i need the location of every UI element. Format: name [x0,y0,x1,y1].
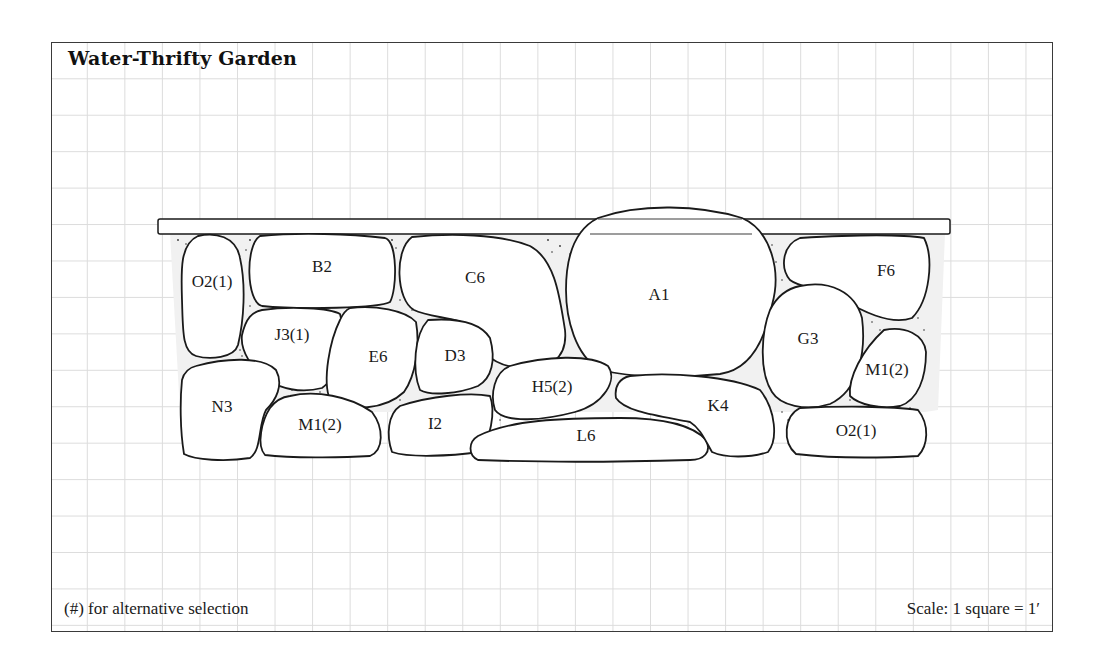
stone-label: O2(1) [836,421,877,440]
stone-label: I2 [428,414,442,433]
wall-cap-board [158,219,950,234]
stone-A1: A1 [566,207,775,376]
stone-label: G3 [798,329,819,348]
stone-L6: L6 [471,418,709,462]
stone-label: D3 [445,346,466,365]
stone-label: M1(2) [865,360,908,379]
stone-label: B2 [312,257,332,276]
stone-label: M1(2) [298,415,341,434]
stone-label: O2(1) [192,272,233,291]
stone-label: L6 [577,426,596,445]
stone-label: N3 [212,397,233,416]
stone-label: H5(2) [532,377,573,396]
stone-wall-plan: O2(1) B2 C6 A1 F6 J3(1) E6 D3 G3 M1(2) H… [0,0,1094,667]
stone-E6: E6 [327,307,418,407]
stone-label: F6 [877,261,895,280]
stone-D3: D3 [415,320,492,394]
stone-label: J3(1) [275,325,310,344]
stone-label: E6 [369,347,388,366]
stone-G3: G3 [763,284,863,407]
stone-B2: B2 [249,234,395,308]
stone-O2-1-left: O2(1) [182,235,244,358]
stone-O2-1-right: O2(1) [787,407,927,458]
stone-label: K4 [708,396,729,415]
stone-label: A1 [649,285,670,304]
stone-label: C6 [465,268,485,287]
